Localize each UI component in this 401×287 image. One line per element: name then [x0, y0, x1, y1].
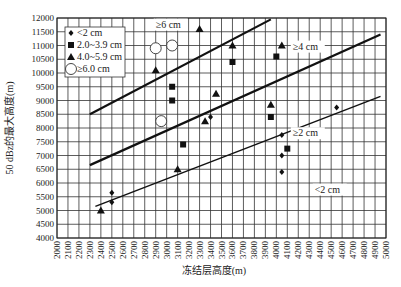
- legend-label: 4.0~5.9 cm: [77, 51, 122, 62]
- square-marker: [273, 54, 279, 60]
- circle-marker: [66, 64, 77, 75]
- diamond-marker: [208, 114, 213, 120]
- x-tick-label: 4600: [337, 241, 347, 260]
- y-tick-label: 10000: [32, 68, 55, 78]
- circle-marker: [150, 43, 161, 54]
- x-tick-label: 3100: [173, 241, 183, 260]
- square-marker: [284, 146, 290, 152]
- y-tick-label: 12000: [32, 13, 55, 23]
- square-marker: [268, 114, 274, 120]
- x-tick-label: 4900: [370, 241, 380, 260]
- diamond-marker: [279, 132, 284, 138]
- triangle-marker: [201, 117, 209, 124]
- x-tick-label: 2400: [96, 241, 106, 260]
- diamond-marker: [279, 169, 284, 175]
- annotation-label: <2 cm: [315, 184, 341, 195]
- x-axis-label: 冻结层高度(m): [182, 264, 246, 277]
- y-tick-label: 7500: [36, 137, 55, 147]
- y-tick-label: 7000: [36, 151, 55, 161]
- diamond-marker: [279, 153, 284, 159]
- circle-marker: [156, 116, 167, 127]
- y-tick-label: 9000: [36, 96, 55, 106]
- x-tick-label: 3300: [195, 241, 205, 260]
- x-tick-label: 4000: [271, 241, 281, 260]
- x-tick-label: 4500: [326, 241, 336, 260]
- x-tick-label: 5000: [381, 241, 391, 260]
- x-tick-label: 2100: [63, 241, 73, 260]
- scatter-chart: 4000450050005500600065007000750080008500…: [0, 0, 401, 287]
- y-tick-label: 10500: [32, 54, 55, 64]
- y-tick-label: 5500: [36, 192, 55, 202]
- square-marker: [68, 42, 74, 48]
- square-marker: [180, 142, 186, 148]
- triangle-marker: [267, 101, 275, 108]
- diamond-marker: [109, 190, 114, 196]
- x-tick-label: 4400: [315, 241, 325, 260]
- x-tick-label: 4300: [304, 241, 314, 260]
- triangle-marker: [228, 42, 236, 49]
- x-tick-label: 4800: [359, 241, 369, 260]
- triangle-marker: [174, 165, 182, 172]
- y-tick-label: 9500: [36, 82, 55, 92]
- y-tick-label: 8500: [36, 109, 55, 119]
- x-tick-label: 2200: [74, 241, 84, 260]
- square-marker: [169, 84, 175, 90]
- x-tick-label: 3900: [260, 241, 270, 260]
- y-tick-label: 11500: [32, 27, 55, 37]
- triangle-marker: [97, 207, 105, 214]
- x-tick-label: 2800: [140, 241, 150, 260]
- legend-label: <2 cm: [77, 27, 103, 38]
- x-tick-label: 4100: [282, 241, 292, 260]
- x-tick-label: 2700: [129, 241, 139, 260]
- x-tick-label: 3500: [217, 241, 227, 260]
- x-tick-label: 3000: [162, 241, 172, 260]
- x-tick-label: 3200: [184, 241, 194, 260]
- x-tick-label: 4700: [348, 241, 358, 260]
- y-tick-label: 11000: [32, 41, 55, 51]
- x-tick-label: 2600: [118, 241, 128, 260]
- triangle-marker: [196, 25, 204, 32]
- circle-marker: [167, 40, 178, 51]
- legend-label: ≥6.0 cm: [77, 63, 110, 74]
- y-tick-label: 8000: [36, 123, 55, 133]
- x-tick-label: 3600: [227, 241, 237, 260]
- annotation-label: ≥4 cm: [293, 41, 318, 52]
- x-tick-label: 2300: [85, 241, 95, 260]
- legend-label: 2.0~3.9 cm: [77, 39, 122, 50]
- annotation-label: ≥2 cm: [293, 127, 318, 138]
- triangle-marker: [212, 90, 220, 97]
- x-tick-label: 3400: [206, 241, 216, 260]
- x-tick-label: 3800: [249, 241, 259, 260]
- y-tick-label: 4500: [36, 219, 55, 229]
- x-tick-label: 4200: [293, 241, 303, 260]
- diamond-marker: [334, 104, 339, 110]
- y-tick-label: 6000: [36, 178, 55, 188]
- triangle-marker: [152, 66, 160, 73]
- y-tick-label: 6500: [36, 164, 55, 174]
- x-tick-label: 2500: [107, 241, 117, 260]
- square-marker: [229, 59, 235, 65]
- x-tick-label: 2900: [151, 241, 161, 260]
- triangle-marker: [278, 42, 286, 49]
- x-tick-label: 2000: [52, 241, 62, 260]
- x-tick-label: 3700: [238, 241, 248, 260]
- y-axis-label: 50 dBz的最大高度(m): [3, 81, 16, 174]
- y-tick-label: 5000: [36, 206, 55, 216]
- annotation-label: ≥6 cm: [156, 19, 181, 30]
- square-marker: [169, 98, 175, 104]
